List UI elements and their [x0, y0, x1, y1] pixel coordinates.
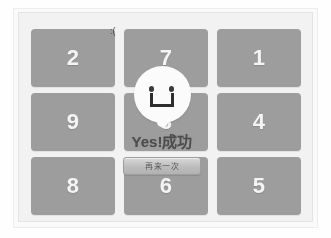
success-overlay: Yes!成功 再来一次: [113, 66, 211, 176]
tile-5[interactable]: 5: [217, 157, 301, 215]
tile-4[interactable]: 4: [217, 93, 301, 151]
tile-label: 8: [67, 173, 80, 199]
app-root: :( 2 7 1 9 3 4 8 6 5: [0, 0, 331, 238]
restart-button[interactable]: 再来一次: [123, 157, 201, 175]
smiley-eye-left-icon: [149, 86, 155, 92]
tile-1[interactable]: 1: [217, 29, 301, 87]
smiley-tail-icon: [157, 118, 168, 127]
tile-label: 1: [253, 45, 266, 71]
tile-label: 6: [160, 173, 173, 199]
smiley-mouth-icon: [150, 97, 174, 107]
tile-label: 2: [67, 45, 80, 71]
tile-label: 9: [67, 109, 80, 135]
smiley-eye-right-icon: [169, 86, 175, 92]
tile-2[interactable]: 2: [31, 29, 115, 87]
tile-label: 5: [253, 173, 266, 199]
success-message: Yes!成功: [132, 130, 193, 151]
tile-8[interactable]: 8: [31, 157, 115, 215]
smiley-face-icon: [134, 66, 191, 123]
tile-9[interactable]: 9: [31, 93, 115, 151]
tile-label: 4: [253, 109, 266, 135]
sad-face-icon: :(: [110, 26, 116, 36]
